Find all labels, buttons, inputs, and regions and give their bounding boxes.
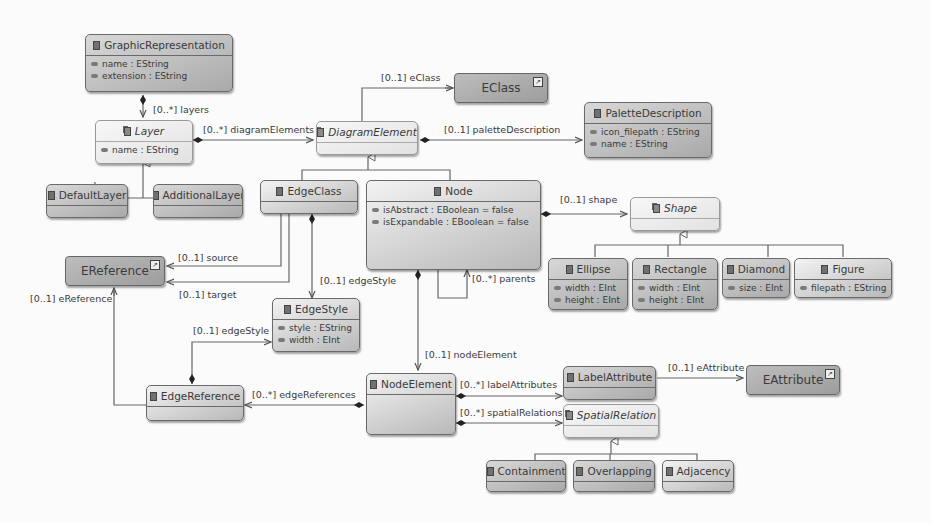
class-spatial-relation[interactable]: SpatialRelation xyxy=(563,404,659,438)
class-header: DiagramElement xyxy=(317,122,417,143)
class-overlapping[interactable]: Overlapping xyxy=(573,460,655,492)
ref-label-ereference: [0..1] eReference xyxy=(30,293,112,304)
class-header: NodeElement xyxy=(367,374,455,395)
class-graphic-representation[interactable]: GraphicRepresentation name : EString ext… xyxy=(85,34,233,92)
eattribute-icon xyxy=(554,286,561,290)
class-palette-description[interactable]: PaletteDescription icon_filepath : EStri… xyxy=(584,102,712,158)
class-shape[interactable]: Shape xyxy=(630,197,720,231)
eattribute-icon xyxy=(372,208,379,212)
external-link-icon: ↗ xyxy=(533,77,543,87)
class-layer[interactable]: Layer name : EString xyxy=(95,120,193,164)
class-header: Shape xyxy=(631,198,719,219)
class-rectangle[interactable]: Rectangle width : EInt height : EInt xyxy=(632,258,718,310)
external-link-icon: ↗ xyxy=(150,260,160,270)
abstract-eclass-icon xyxy=(653,204,660,213)
eclass-icon xyxy=(276,187,283,196)
eclass-icon xyxy=(153,191,159,200)
class-diagram-element[interactable]: DiagramElement xyxy=(316,121,418,155)
attribute-row[interactable]: extension : EString xyxy=(91,70,227,82)
attribute-row[interactable]: filepath : EString xyxy=(800,282,886,294)
ref-label-spatial-relations: [0..*] spatialRelations xyxy=(460,407,563,418)
external-type-eclass[interactable]: EClass ↗ xyxy=(454,73,548,103)
class-edge-style[interactable]: EdgeStyle style : EString width : EInt xyxy=(272,298,360,352)
external-link-icon: ↗ xyxy=(825,369,835,379)
class-header: Ellipse xyxy=(549,259,627,280)
class-label-attribute[interactable]: LabelAttribute xyxy=(563,366,656,400)
class-edge-reference[interactable]: EdgeReference xyxy=(146,385,244,421)
attribute-row[interactable]: width : EInt xyxy=(638,282,712,294)
eclass-icon xyxy=(48,191,55,200)
attribute-row[interactable]: isAbstract : EBoolean = false xyxy=(372,204,535,216)
attribute-row[interactable]: isExpandable : EBoolean = false xyxy=(372,216,535,228)
class-header: Node xyxy=(367,181,540,202)
ref-label-diagram-elements: [0..*] diagramElements xyxy=(203,124,314,135)
eattribute-icon xyxy=(728,286,735,290)
attribute-row[interactable]: style : EString xyxy=(278,322,354,334)
ref-label-shape: [0..1] shape xyxy=(560,194,617,205)
eclass-icon xyxy=(821,265,828,274)
eclass-icon xyxy=(643,265,650,274)
class-header: Overlapping xyxy=(574,461,654,482)
attribute-row[interactable]: name : EString xyxy=(101,144,187,156)
attribute-row[interactable]: name : EString xyxy=(590,138,706,150)
attribute-row[interactable]: height : EInt xyxy=(638,294,712,306)
class-header: GraphicRepresentation xyxy=(86,35,232,56)
ref-label-node-element: [0..1] nodeElement xyxy=(425,349,517,360)
eclass-icon xyxy=(150,392,157,401)
class-adjacency[interactable]: Adjacency xyxy=(662,460,734,492)
class-additional-layer[interactable]: AdditionalLayer xyxy=(153,184,243,218)
eattribute-icon xyxy=(638,298,645,302)
eattribute-icon xyxy=(554,298,561,302)
ref-label-eattribute: [0..1] eAttribute xyxy=(668,362,744,373)
eclass-icon xyxy=(284,305,291,314)
class-figure[interactable]: Figure filepath : EString xyxy=(794,258,892,298)
attribute-row[interactable]: size : EInt xyxy=(728,282,784,294)
class-header: Containment xyxy=(487,461,565,482)
diagram-canvas: GraphicRepresentation name : EString ext… xyxy=(0,0,931,523)
external-type-ereference[interactable]: EReference ↗ xyxy=(65,256,165,286)
class-header: Figure xyxy=(795,259,891,280)
abstract-eclass-icon xyxy=(566,411,573,420)
class-header: DefaultLayer xyxy=(47,185,127,206)
attribute-row[interactable]: name : EString xyxy=(91,58,227,70)
eclass-icon xyxy=(370,380,377,389)
ref-label-label-attributes: [0..*] labelAttributes xyxy=(460,379,557,390)
attribute-row[interactable]: width : EInt xyxy=(554,282,622,294)
eclass-icon xyxy=(487,467,494,476)
eattribute-icon xyxy=(101,148,108,152)
attribute-row[interactable]: width : EInt xyxy=(278,334,354,346)
abstract-eclass-icon xyxy=(124,127,131,136)
class-ellipse[interactable]: Ellipse width : EInt height : EInt xyxy=(548,258,628,310)
eattribute-icon xyxy=(372,220,379,224)
class-node[interactable]: Node isAbstract : EBoolean = false isExp… xyxy=(366,180,541,270)
eattribute-icon xyxy=(91,74,98,78)
class-header: Layer xyxy=(96,121,192,142)
ref-label-source: [0..1] source xyxy=(178,252,238,263)
eattribute-icon xyxy=(638,286,645,290)
class-default-layer[interactable]: DefaultLayer xyxy=(46,184,128,218)
attribute-row[interactable]: icon_filepath : EString xyxy=(590,126,706,138)
class-edge-class[interactable]: EdgeClass xyxy=(260,180,358,214)
ref-label-layers: [0..*] layers xyxy=(153,104,209,115)
class-header: Adjacency xyxy=(663,461,733,482)
attribute-row[interactable]: height : EInt xyxy=(554,294,622,306)
class-header: AdditionalLayer xyxy=(154,185,242,206)
class-node-element[interactable]: NodeElement xyxy=(366,373,456,435)
class-header: EdgeStyle xyxy=(273,299,359,320)
eclass-icon xyxy=(567,373,574,382)
abstract-eclass-icon xyxy=(317,128,324,137)
ref-label-palette-description: [0..1] paletteDescription xyxy=(444,124,560,135)
eclass-icon xyxy=(566,265,573,274)
eclass-icon xyxy=(594,109,601,118)
eattribute-icon xyxy=(278,338,285,342)
eattribute-icon xyxy=(800,286,807,290)
class-header: Rectangle xyxy=(633,259,717,280)
class-diamond[interactable]: Diamond size : EInt xyxy=(722,258,790,298)
ref-label-edge-references: [0..*] edgeReferences xyxy=(252,389,356,400)
class-header: PaletteDescription xyxy=(585,103,711,124)
external-type-eattribute[interactable]: EAttribute ↗ xyxy=(746,365,840,395)
ref-label-eclass: [0..1] eClass xyxy=(381,72,440,83)
class-containment[interactable]: Containment xyxy=(486,460,566,492)
class-header: LabelAttribute xyxy=(564,367,655,388)
class-header: SpatialRelation xyxy=(564,405,658,426)
